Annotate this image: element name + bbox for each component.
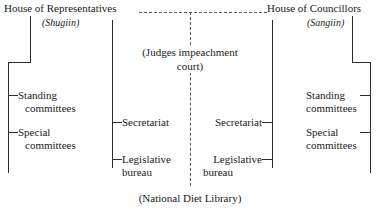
hoc-bracket-spine <box>370 62 371 173</box>
hor-tick-legislative-bureau <box>112 159 122 160</box>
hor-standing-committees-line2: committees <box>25 102 76 115</box>
diet-organization-diagram: House of Representatives (Shugiin) House… <box>0 0 379 211</box>
hoc-tick-secretariat <box>262 122 273 123</box>
hor-tick-special-committees <box>8 132 18 133</box>
hoc-title-drop-line <box>352 16 353 62</box>
house-of-representatives-subtitle: (Shugiin) <box>42 17 79 30</box>
hor-special-committees-line1: Special <box>18 126 50 139</box>
hoc-legislative-bureau-line1: Legislative <box>192 153 262 166</box>
national-diet-library-node: (National Diet Library) <box>95 192 285 205</box>
hor-standing-committees-line1: Standing <box>18 89 57 102</box>
hoc-standing-committees-line1: Standing <box>306 89 345 102</box>
hoc-special-committees-line2: committees <box>306 139 357 152</box>
house-of-representatives-title: House of Representatives <box>4 2 116 15</box>
hoc-legislative-bureau-line2: bureau <box>203 166 233 179</box>
house-of-councillors-subtitle: (Sangiin) <box>307 17 344 30</box>
hor-elbow-line <box>8 62 31 63</box>
hoc-tick-standing-committees <box>360 95 371 96</box>
hoc-elbow-line <box>352 62 371 63</box>
hor-inner-bracket-spine <box>112 20 113 168</box>
hor-tick-standing-committees <box>8 95 18 96</box>
hoc-secretariat-label: Secretariat <box>192 116 262 129</box>
judges-impeachment-court-line2: court) <box>120 60 260 73</box>
hoc-special-committees-line1: Special <box>306 126 338 139</box>
hor-legislative-bureau-line2: bureau <box>122 166 152 179</box>
hor-legislative-bureau-line1: Legislative <box>122 153 171 166</box>
hoc-standing-committees-line2: committees <box>306 102 357 115</box>
houses-dashed-connector <box>139 12 267 13</box>
hoc-inner-bracket-spine <box>272 20 273 168</box>
hor-bracket-spine <box>8 62 9 173</box>
judges-impeachment-court-line1: (Judges impeachment <box>120 46 260 59</box>
hor-secretariat-label: Secretariat <box>122 116 169 129</box>
hoc-tick-legislative-bureau <box>262 159 273 160</box>
hor-title-drop-line <box>30 16 31 62</box>
hor-special-committees-line2: committees <box>25 139 76 152</box>
central-dashed-spine <box>190 12 191 186</box>
hor-tick-secretariat <box>112 122 122 123</box>
house-of-councillors-title: House of Councillors <box>267 2 361 15</box>
hoc-tick-special-committees <box>360 132 371 133</box>
